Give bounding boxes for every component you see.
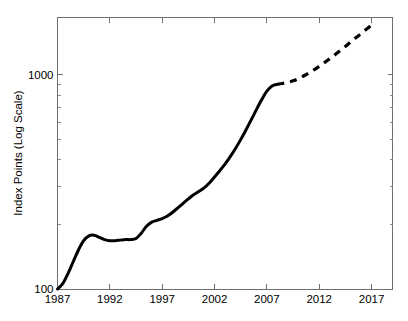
line-chart: 1000100 1987199219972002200720122017 Ind…: [0, 0, 408, 321]
x-tick-label-2012: 2012: [306, 293, 332, 305]
x-axis-tick-labels: 1987199219972002200720122017: [45, 293, 385, 305]
plot-border: [58, 18, 393, 290]
plot-frame: [58, 18, 393, 290]
x-tick-label-1987: 1987: [45, 293, 71, 305]
series-line-forecast: [277, 25, 371, 84]
x-tick-label-1997: 1997: [149, 293, 175, 305]
y-axis-tick-labels: 1000100: [28, 69, 54, 296]
y-tick-label-1000: 1000: [28, 69, 54, 81]
x-tick-label-2002: 2002: [202, 293, 228, 305]
series-line-historical: [58, 84, 278, 289]
x-tick-label-1992: 1992: [97, 293, 123, 305]
chart-figure: 1000100 1987199219972002200720122017 Ind…: [0, 0, 408, 321]
y-axis-ticks: [58, 75, 393, 290]
x-axis-ticks: [58, 18, 372, 290]
y-axis-title: Index Points (Log Scale): [12, 90, 24, 215]
x-tick-label-2007: 2007: [254, 293, 280, 305]
x-tick-label-2017: 2017: [359, 293, 385, 305]
